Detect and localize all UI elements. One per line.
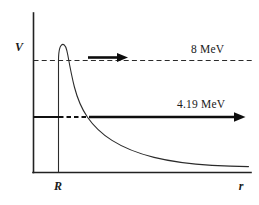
energy-level-419mev-arrowhead	[234, 112, 246, 121]
figure-canvas: V r R 8 MeV 4.19 MeV	[0, 0, 259, 205]
potential-barrier-figure: V r R 8 MeV 4.19 MeV	[0, 0, 259, 205]
x-axis-label: r	[239, 179, 244, 193]
energy-level-419mev-label: 4.19 MeV	[177, 98, 226, 110]
energy-level-8mev-label: 8 MeV	[191, 43, 225, 55]
y-axis-label: V	[15, 40, 24, 54]
energy-level-419mev-group	[34, 112, 246, 121]
axes-group	[33, 13, 251, 173]
radius-tick-label: R	[53, 179, 62, 193]
